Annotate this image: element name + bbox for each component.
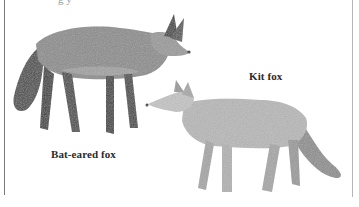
kit-fox-figure	[146, 80, 341, 192]
kit-fox-ear-back	[174, 80, 184, 92]
kit-fox-leg-front-2	[222, 144, 232, 192]
bat-fox-leg-front-2	[124, 74, 138, 128]
kit-fox-leg-front-1	[198, 140, 214, 190]
kit-fox-label: Kit fox	[249, 70, 282, 82]
kit-fox-leg-rear-1	[262, 144, 280, 192]
bat-fox-leg-rear-1	[40, 66, 54, 130]
kit-fox-leg-rear-2	[288, 140, 300, 186]
bat-fox-leg-front-1	[106, 76, 114, 134]
bat-eared-fox-figure	[14, 14, 191, 134]
bat-eared-fox-label: Bat-eared fox	[51, 148, 116, 160]
bat-fox-leg-rear-2	[62, 72, 80, 132]
fox-illustration	[0, 0, 359, 207]
